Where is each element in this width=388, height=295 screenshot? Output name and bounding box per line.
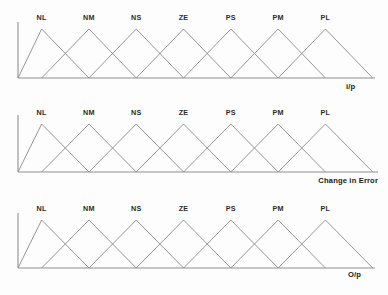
mf-label-pl: PL [321, 108, 331, 117]
membership-triangle-nm [42, 124, 137, 172]
mf-label-ze: ZE [179, 204, 189, 213]
mf-label-nm: NM [83, 13, 95, 22]
mf-label-nl: NL [37, 108, 47, 117]
membership-triangle-pl [278, 220, 373, 268]
mf-label-ze: ZE [179, 108, 189, 117]
mf-label-nm: NM [83, 204, 95, 213]
mf-label-ns: NS [131, 13, 141, 22]
membership-triangle-ze [136, 220, 231, 268]
membership-triangle-ps [184, 124, 279, 172]
mf-label-ze: ZE [179, 13, 189, 22]
mf-label-pm: PM [273, 13, 284, 22]
membership-triangle-nl [18, 124, 89, 172]
membership-triangle-nl [18, 220, 89, 268]
mf-label-nm: NM [83, 108, 95, 117]
mf-label-ns: NS [131, 108, 141, 117]
mf-label-pm: PM [273, 204, 284, 213]
mf-label-nl: NL [37, 13, 47, 22]
membership-triangle-pm [231, 220, 326, 268]
membership-triangle-nl [18, 29, 89, 78]
chart-input-membership: NLNMNSZEPSPMPL i/p [0, 0, 388, 98]
membership-triangle-pl [278, 29, 373, 78]
chart-output-membership: NLNMNSZEPSPMPL O/p [0, 192, 388, 295]
mf-label-pm: PM [273, 108, 284, 117]
membership-triangle-ns [89, 124, 184, 172]
chart-input-axis-label: i/p [346, 82, 355, 91]
mf-label-ps: PS [226, 108, 236, 117]
mf-label-ps: PS [226, 204, 236, 213]
mf-label-nl: NL [37, 204, 47, 213]
membership-triangle-ps [184, 220, 279, 268]
membership-triangle-ps [184, 29, 279, 78]
membership-triangle-pl [278, 124, 373, 172]
membership-triangle-pm [231, 29, 326, 78]
chart-change-in-error-membership: NLNMNSZEPSPMPL Change in Error [0, 96, 388, 194]
mf-label-ps: PS [226, 13, 236, 22]
membership-triangle-nm [42, 29, 137, 78]
mf-label-pl: PL [321, 204, 331, 213]
membership-triangle-nm [42, 220, 137, 268]
fuzzy-membership-figure: NLNMNSZEPSPMPL i/p NLNMNSZEPSPMPL Change… [0, 0, 388, 295]
mf-label-pl: PL [321, 13, 331, 22]
membership-triangle-ns [89, 29, 184, 78]
membership-triangle-ns [89, 220, 184, 268]
membership-triangle-pm [231, 124, 326, 172]
mf-label-ns: NS [131, 204, 141, 213]
membership-triangle-ze [136, 124, 231, 172]
membership-triangle-ze [136, 29, 231, 78]
chart-change-in-error-axis-label: Change in Error [318, 176, 378, 185]
chart-output-axis-label: O/p [348, 270, 361, 279]
